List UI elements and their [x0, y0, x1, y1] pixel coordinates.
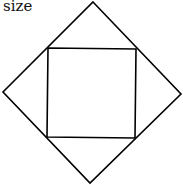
nested-squares-diagram: [0, 0, 183, 185]
inner-square: [47, 48, 136, 138]
outer-diamond: [3, 2, 181, 183]
